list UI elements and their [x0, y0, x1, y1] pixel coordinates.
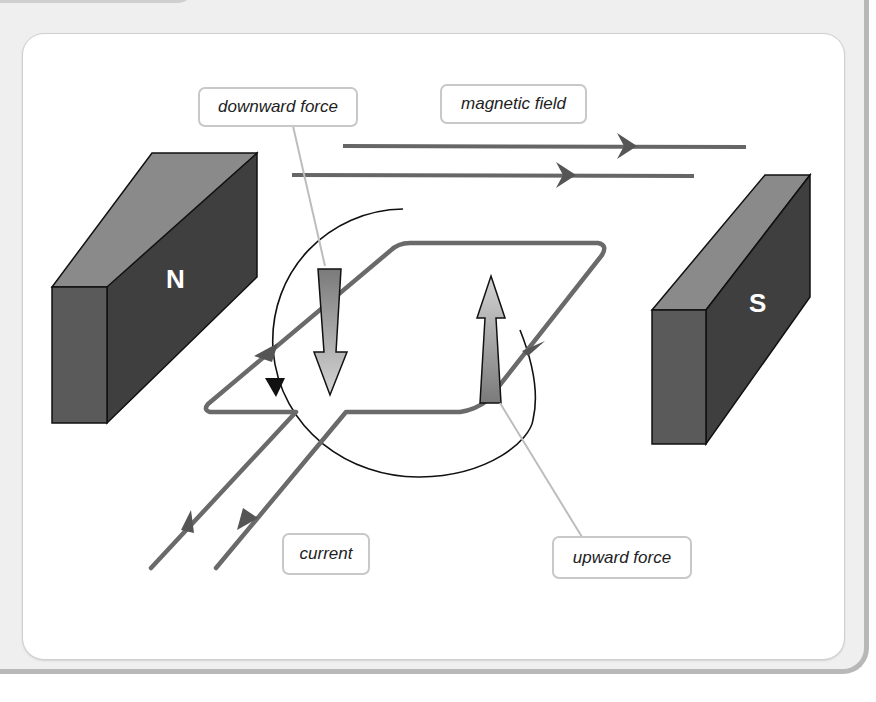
motor-effect-diagram — [0, 0, 876, 702]
upward-force-label: upward force — [552, 536, 692, 579]
north-pole-label: N — [166, 264, 185, 295]
current-label: current — [282, 533, 370, 575]
downward-force-arrow — [314, 269, 347, 395]
magnetic-field-lines — [292, 133, 746, 188]
south-pole-label: S — [749, 288, 766, 319]
south-magnet — [652, 175, 810, 444]
magnetic-field-label: magnetic field — [440, 84, 587, 124]
downward-force-label: downward force — [198, 87, 358, 127]
north-magnet — [52, 153, 257, 423]
